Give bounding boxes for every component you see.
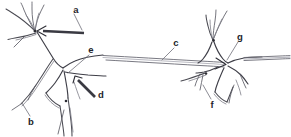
- label-b: b: [28, 116, 34, 127]
- pointer-e: [68, 55, 89, 73]
- axon-hillock-node: [65, 100, 68, 103]
- dendrite-node-right-lower: [205, 72, 208, 75]
- pointer-d: [73, 76, 95, 97]
- label-g: g: [237, 31, 243, 42]
- neuron-diagram-figure: a b c d e f g: [0, 0, 291, 137]
- axon-right-neuron: [244, 56, 290, 61]
- pointer-f: [203, 85, 211, 99]
- dendritic-branch-node: [34, 30, 37, 33]
- label-e: e: [88, 44, 93, 55]
- dendrite-tree-upper-left: [6, 2, 44, 33]
- pointer-b: [22, 103, 30, 116]
- dendrite-lower-left-left-neuron: [12, 59, 60, 110]
- label-c: c: [173, 37, 178, 48]
- dendritic-branch-node-right: [212, 39, 215, 42]
- dendrite-tree-upper-right: [206, 10, 227, 42]
- pointer-a: [37, 14, 84, 36]
- dendrite-stub-lower-right: [74, 82, 80, 99]
- dendrite-mid-left: [8, 33, 36, 47]
- right-neuron: [181, 10, 290, 104]
- dendrite-lower-left-right-neuron: [181, 72, 207, 90]
- left-neuron: [6, 2, 106, 136]
- soma-left-neuron: [37, 32, 106, 98]
- pointer-g: [227, 42, 238, 60]
- dendrite-descending-left-neuron: [58, 98, 73, 136]
- label-f: f: [210, 99, 214, 110]
- soma-right-neuron: [196, 42, 262, 92]
- neuron-diagram-canvas: a b c d e f g: [0, 0, 291, 137]
- label-a: a: [73, 4, 79, 15]
- pointer-c: [162, 48, 174, 60]
- label-d: d: [98, 89, 104, 100]
